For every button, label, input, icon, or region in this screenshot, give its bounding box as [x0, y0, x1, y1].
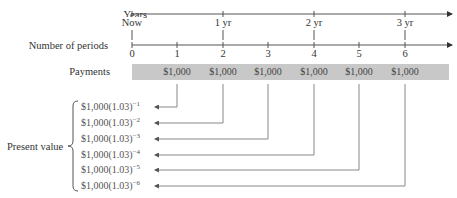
brace: [68, 101, 78, 191]
payment-2: $1,000: [209, 66, 237, 77]
label-payments: Payments: [69, 66, 110, 77]
period-tick-4: 4: [311, 48, 316, 59]
period-tick-2: 2: [220, 48, 225, 59]
year-tick-3: 3 yr: [396, 17, 415, 28]
payment-5: $1,000: [345, 66, 373, 77]
year-tick-1: 1 yr: [214, 17, 233, 28]
payment-4: $1,000: [300, 66, 328, 77]
payment-6: $1,000: [391, 66, 419, 77]
discount-connectors: [155, 84, 405, 186]
period-tick-1: 1: [174, 48, 179, 59]
present-value-2: $1,000(1.03)−2: [81, 116, 140, 128]
period-tick-6: 6: [402, 48, 407, 59]
present-value-6: $1,000(1.03)−6: [81, 179, 140, 191]
period-tick-3: 3: [265, 48, 270, 59]
present-value-1: $1,000(1.03)−1: [81, 100, 140, 112]
year-tick-2: 2 yr: [305, 17, 324, 28]
present-value-4: $1,000(1.03)−4: [81, 148, 140, 160]
year-tick-now: Now: [121, 17, 143, 28]
payment-1: $1,000: [163, 66, 191, 77]
present-value-5: $1,000(1.03)−5: [81, 163, 140, 175]
period-tick-0: 0: [129, 48, 134, 59]
payment-3: $1,000: [254, 66, 282, 77]
label-present-value: Present value: [7, 141, 63, 152]
timeline-graphics: [0, 0, 457, 198]
present-value-3: $1,000(1.03)−3: [81, 132, 140, 144]
label-periods: Number of periods: [29, 40, 108, 51]
period-tick-5: 5: [356, 48, 361, 59]
